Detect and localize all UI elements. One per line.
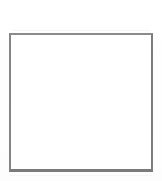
frame-interior-content [11,35,151,169]
scan-artifact-top [12,30,150,31]
empty-frame-box [9,33,153,172]
scan-artifact-bottom [10,175,152,176]
page-canvas [0,0,162,181]
